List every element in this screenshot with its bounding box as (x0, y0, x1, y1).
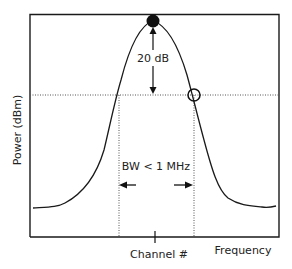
down-arrowhead-icon (150, 87, 157, 94)
bandwidth-annotation: BW < 1 MHz (122, 160, 190, 173)
up-arrowhead-icon (150, 27, 157, 34)
spectrum-diagram: 20 dB BW < 1 MHz Channel # Frequency Pow… (0, 0, 292, 269)
level-annotation: 20 dB (137, 52, 169, 65)
x-center-label: Channel # (130, 248, 188, 261)
left-arrowhead-icon (119, 182, 127, 189)
peak-marker (147, 15, 160, 28)
y-axis-label: Power (dBm) (11, 95, 24, 166)
x-axis-label: Frequency (215, 244, 272, 257)
right-arrowhead-icon (185, 182, 193, 189)
spectrum-curve (33, 21, 276, 208)
